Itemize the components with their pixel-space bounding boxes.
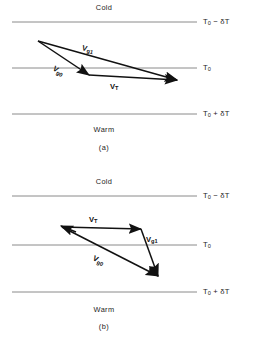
vector-subscript: T (94, 218, 97, 224)
panel-b-vector-vt (62, 227, 141, 229)
panel-b-warm-isotherm-label: T0 + δT (203, 288, 230, 297)
panel-a-cold-label: Cold (96, 4, 113, 11)
panel-a-vt-label: VT (110, 83, 119, 92)
temp-suffix: + δT (211, 287, 230, 296)
panel-b-caption: (b) (99, 322, 110, 331)
panel-a-cold-isotherm-label: T0 − δT (203, 18, 230, 27)
panel-b-middle-isotherm-label: T0 (203, 241, 211, 250)
panel-b-cold-isotherm-label: T0 − δT (203, 192, 230, 201)
temp-subscript: 0 (208, 66, 211, 72)
vector-subscript: g1 (151, 238, 158, 244)
temp-suffix: + δT (211, 109, 230, 118)
panel-a-caption: (a) (99, 143, 110, 152)
panel-a-warm-isotherm-label: T0 + δT (203, 110, 230, 119)
temp-suffix: − δT (211, 191, 230, 200)
temp-subscript: 0 (208, 243, 211, 249)
panel-b-cold-label: Cold (96, 178, 113, 185)
temp-suffix: − δT (211, 17, 230, 26)
panel-a-warm-label: Warm (94, 126, 115, 133)
vector-diagram-figure: Cold T0 − δT T0 T0 + δT Warm (a) Vg1 Vg0… (0, 0, 257, 338)
panel-b-vg1-label: Vg1 (146, 236, 158, 245)
panel-a-middle-isotherm-label: T0 (203, 64, 211, 73)
panel-b-warm-label: Warm (94, 306, 115, 313)
panel-b-vt-label: VT (89, 216, 98, 225)
vector-subscript: T (115, 85, 118, 91)
